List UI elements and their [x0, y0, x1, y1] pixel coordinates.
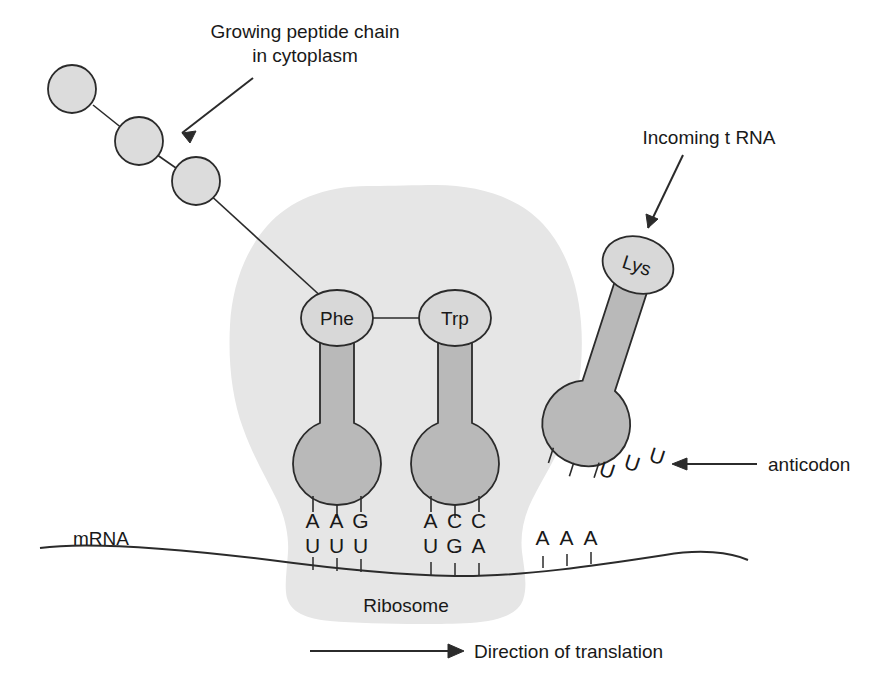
a-site-codon-base-1: U — [423, 534, 439, 557]
p-site-anticodon-base-2: A — [329, 509, 344, 532]
p-site-codon-base-2: U — [329, 534, 345, 557]
p-site-codon-base-1: U — [305, 534, 321, 557]
next-codon-group: A A A — [535, 526, 598, 568]
diagram-canvas: Ribosome Growing peptide chain in cytopl… — [0, 0, 892, 693]
next-codon-base-3: A — [583, 526, 598, 549]
p-site-anticodon-base-3: G — [352, 509, 369, 532]
amino-acid-phe: Phe — [301, 290, 373, 346]
incoming-trna-arrow — [646, 155, 683, 228]
mrna-label: mRNA — [73, 528, 129, 549]
a-site-anticodon-base-2: C — [447, 509, 463, 532]
incoming-trna-label: Incoming t RNA — [642, 127, 775, 148]
a-site-codon-base-2: G — [446, 534, 463, 557]
a-site-anticodon-base-1: A — [423, 509, 438, 532]
amino-acid-trp: Trp — [419, 290, 491, 346]
peptide-residue-1 — [48, 65, 96, 113]
next-codon-base-2: A — [559, 526, 574, 549]
p-site-anticodon-base-1: A — [305, 509, 320, 532]
anticodon-label: anticodon — [768, 454, 850, 475]
a-site-anticodon-base-3: C — [471, 509, 487, 532]
p-site-codon-base-3: U — [353, 534, 369, 557]
peptide-residue-3 — [172, 157, 220, 205]
next-codon-base-1: A — [535, 526, 550, 549]
ribosome-label: Ribosome — [363, 595, 449, 616]
direction-of-translation-label: Direction of translation — [474, 641, 663, 662]
incoming-anticodon-base-2: U — [622, 450, 644, 477]
ribosome-body — [230, 185, 582, 624]
anticodon-arrow — [672, 458, 757, 470]
growing-chain-arrow — [182, 78, 253, 143]
amino-acid-phe-label: Phe — [320, 308, 354, 329]
translation-diagram: Ribosome Growing peptide chain in cytopl… — [0, 0, 892, 693]
growing-chain-label-line1: Growing peptide chain — [210, 21, 399, 42]
peptide-residue-2 — [115, 117, 163, 165]
incoming-anticodon-base-3: U — [647, 443, 669, 470]
growing-chain-label-line2: in cytoplasm — [252, 45, 358, 66]
a-site-codon-base-3: A — [471, 534, 486, 557]
direction-arrow — [310, 644, 464, 658]
trna-lys-leg-2 — [569, 463, 573, 476]
amino-acid-trp-label: Trp — [441, 308, 469, 329]
